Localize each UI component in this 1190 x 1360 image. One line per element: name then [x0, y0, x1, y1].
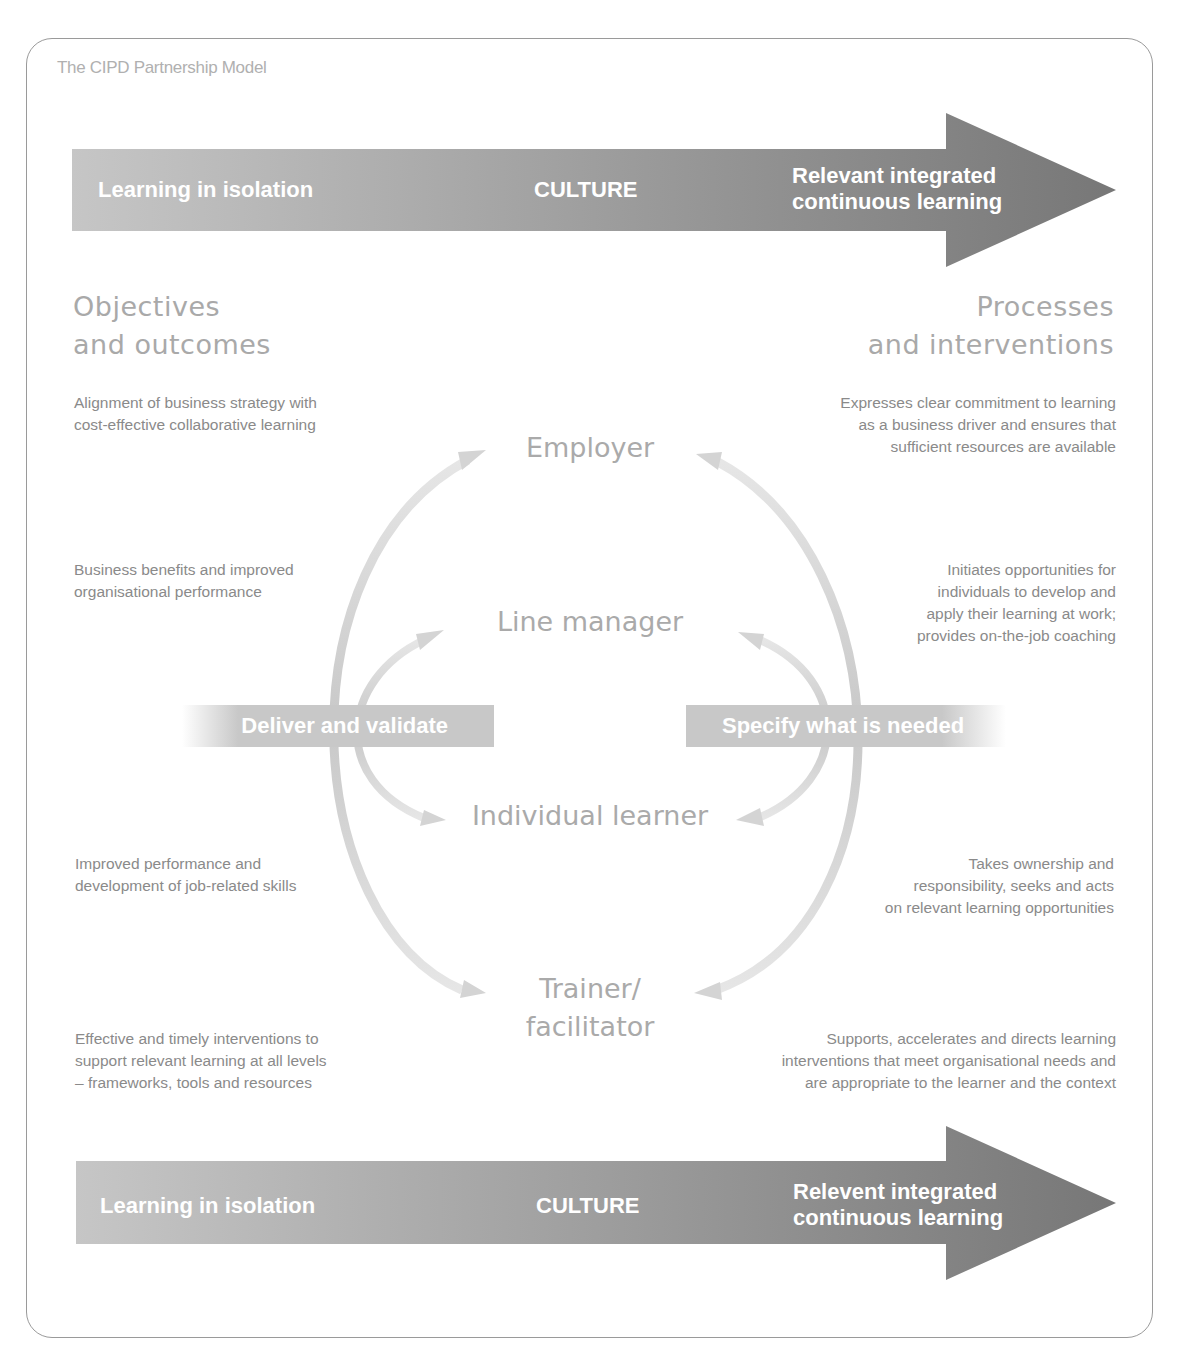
bottom-band-left-label: Learning in isolation	[100, 1193, 315, 1219]
arrowhead-icon	[696, 452, 722, 470]
arrowhead-icon	[694, 982, 722, 1000]
objective-employer: Alignment of business strategy with cost…	[74, 392, 317, 436]
arrowhead-icon	[738, 632, 764, 650]
arrowhead-icon	[458, 450, 486, 470]
bottom-band-right-label: Relevent integrated continuous learning	[793, 1179, 1003, 1231]
specify-needed-band: Specify what is needed	[686, 705, 1006, 747]
process-employer: Expresses clear commitment to learning a…	[840, 392, 1116, 458]
top-band-center-label: CULTURE	[534, 177, 637, 203]
process-trainer: Supports, accelerates and directs learni…	[782, 1028, 1116, 1094]
process-line-manager: Initiates opportunities for individuals …	[917, 559, 1116, 647]
arrowhead-icon	[736, 808, 764, 826]
process-individual-learner: Takes ownership and responsibility, seek…	[885, 853, 1114, 919]
role-trainer-facilitator: Trainer/ facilitator	[490, 970, 690, 1046]
top-band-left-label: Learning in isolation	[98, 177, 313, 203]
objective-line-manager: Business benefits and improved organisat…	[74, 559, 294, 603]
arrowhead-icon	[460, 980, 486, 998]
role-individual-learner: Individual learner	[440, 797, 740, 835]
diagram-graphics	[0, 0, 1190, 1360]
role-line-manager: Line manager	[460, 603, 720, 641]
top-band-right-label: Relevant integrated continuous learning	[792, 163, 1002, 215]
objectives-heading: Objectives and outcomes	[73, 288, 271, 364]
objective-trainer: Effective and timely interventions to su…	[75, 1028, 327, 1094]
bottom-band-center-label: CULTURE	[536, 1193, 639, 1219]
role-employer: Employer	[490, 429, 690, 467]
processes-heading: Processes and interventions	[868, 288, 1114, 364]
deliver-validate-band: Deliver and validate	[182, 705, 494, 747]
objective-individual-learner: Improved performance and development of …	[75, 853, 296, 897]
arrowhead-icon	[416, 630, 444, 650]
